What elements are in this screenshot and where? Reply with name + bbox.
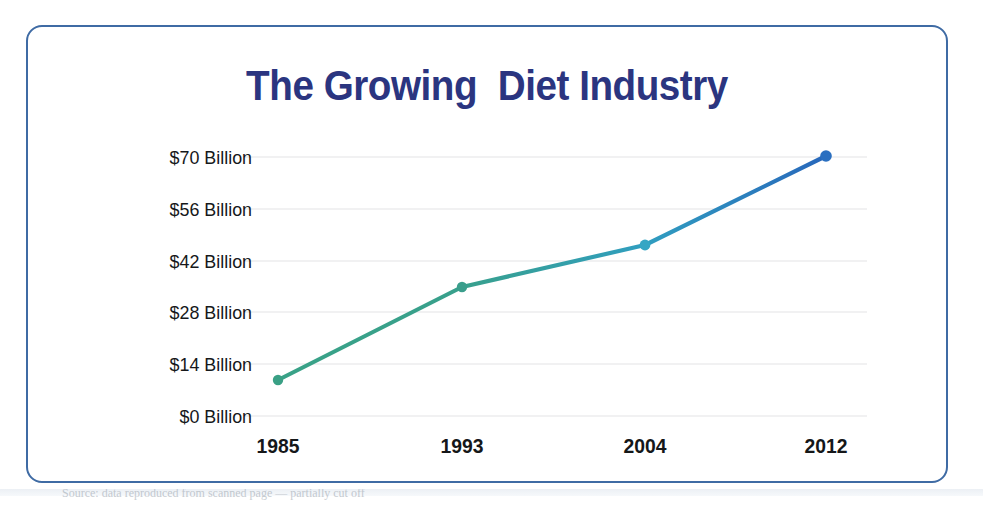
x-tick-1993: 1993 xyxy=(407,435,517,456)
x-axis-labels: 1985 1993 2004 2012 xyxy=(28,27,946,481)
scan-sliver-text: Source: data reproduced from scanned pag… xyxy=(62,489,365,501)
x-tick-2012: 2012 xyxy=(771,435,881,456)
chart-plot-area: $70 Billion $56 Billion $42 Billion $28 … xyxy=(28,27,946,481)
page-scan-sliver: Source: data reproduced from scanned pag… xyxy=(0,489,983,505)
chart-card: The Growing Diet Industry xyxy=(26,25,948,483)
x-tick-2004: 2004 xyxy=(590,435,700,456)
screenshot-page: The Growing Diet Industry xyxy=(0,0,983,505)
x-tick-1985: 1985 xyxy=(223,435,333,456)
